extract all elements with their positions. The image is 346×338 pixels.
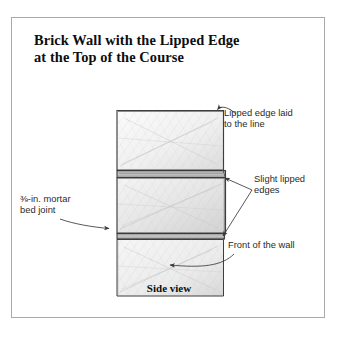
lower-mortar-joint <box>117 234 225 240</box>
annotation-slight-lipped-edges: Slight lipped edges <box>254 173 334 196</box>
slight-lipped-edges-arrow-upper <box>225 178 252 190</box>
annotation-lipped-edge-laid: Lipped edge laid to the line <box>224 107 320 130</box>
middle-brick <box>117 178 226 233</box>
figure-caption: Side view <box>124 282 214 294</box>
upper-mortar-joint <box>117 171 226 178</box>
figure-panel: Brick Wall with the Lipped Edge at the T… <box>11 17 325 318</box>
top-brick <box>117 111 224 171</box>
annotation-front-of-the-wall: Front of the wall <box>228 239 328 250</box>
slight-lipped-edges-arrow-lower <box>223 190 252 236</box>
mortar-bed-joint-arrow <box>60 219 109 229</box>
annotation-mortar-bed-joint: ⅜-in. mortar bed joint <box>20 193 112 216</box>
brick-wall-illustration <box>12 18 324 317</box>
